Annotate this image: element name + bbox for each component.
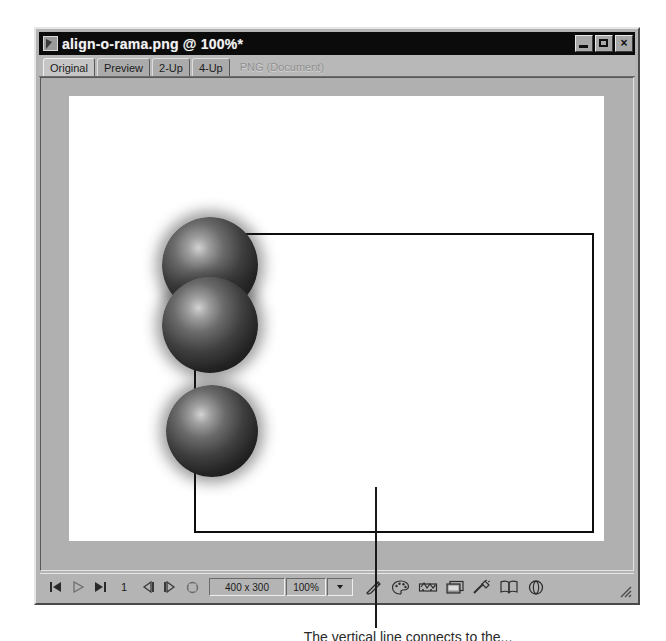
tab-original[interactable]: Original: [43, 58, 95, 76]
frame-number-field[interactable]: 1: [111, 581, 137, 593]
rotate-icon[interactable]: [522, 576, 549, 598]
document-type-label: PNG (Document): [240, 58, 324, 76]
image-editor-window: align-o-rama.png @ 100%* × Original Prev…: [34, 27, 640, 605]
image-size-field[interactable]: 400 x 300: [209, 578, 285, 596]
animation-icon[interactable]: [414, 576, 441, 598]
document-sheet[interactable]: [69, 96, 604, 541]
window-title: align-o-rama.png @ 100%*: [62, 36, 575, 52]
tab-preview[interactable]: Preview: [97, 58, 150, 76]
pencil-icon[interactable]: [360, 576, 387, 598]
resize-grip[interactable]: [618, 584, 632, 598]
preview-in-browser-icon[interactable]: [441, 576, 468, 598]
palette-icon[interactable]: [387, 576, 414, 598]
tab-4up[interactable]: 4-Up: [192, 58, 230, 76]
last-frame-icon[interactable]: [89, 577, 111, 597]
caption-button-group: ×: [575, 35, 633, 52]
title-bar[interactable]: align-o-rama.png @ 100%* ×: [39, 32, 635, 55]
chevron-down-icon[interactable]: [327, 578, 353, 596]
artwork-frame[interactable]: [194, 233, 594, 533]
maximize-button[interactable]: [595, 35, 613, 52]
canvas-work-area[interactable]: [40, 77, 634, 571]
zoom-level-field[interactable]: 100%: [286, 578, 326, 596]
annotation-leader-line: [375, 487, 377, 628]
previous-frame-icon[interactable]: [137, 577, 159, 597]
close-button[interactable]: ×: [615, 35, 633, 52]
loop-playback-icon[interactable]: [181, 577, 203, 597]
document-image-icon: [43, 36, 58, 51]
status-bar: 1 400 x 300 100%: [40, 573, 634, 600]
first-frame-icon[interactable]: [45, 577, 67, 597]
minimize-button[interactable]: [575, 35, 593, 52]
annotation-caption: The vertical line connects to the...: [198, 628, 618, 641]
sphere-bottom: [166, 385, 258, 477]
tool-button-group: [360, 576, 549, 598]
sphere-middle: [162, 277, 258, 373]
book-icon[interactable]: [495, 576, 522, 598]
play-icon[interactable]: [67, 577, 89, 597]
optimize-icon[interactable]: [468, 576, 495, 598]
tab-2up[interactable]: 2-Up: [152, 58, 190, 76]
view-tab-bar: Original Preview 2-Up 4-Up PNG (Document…: [39, 55, 635, 77]
next-frame-icon[interactable]: [159, 577, 181, 597]
